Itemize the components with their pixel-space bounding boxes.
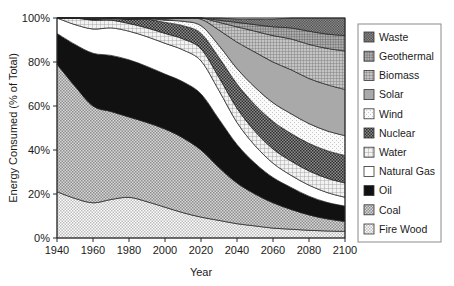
y-tick-label: 20% [28,188,50,200]
legend-label-waste: Waste [379,31,409,43]
legend-label-solar: Solar [379,88,404,100]
stacked-area-bands [57,18,345,238]
x-tick-label: 2040 [225,244,249,256]
solar-swatch [364,90,374,100]
biomass-swatch [364,70,374,80]
y-tick-label: 60% [28,100,50,112]
nuclear-swatch [364,128,374,138]
geothermal-swatch [364,51,374,61]
x-tick-label: 2060 [261,244,285,256]
x-axis-tick-labels: 194019601980200020202040206020802100 [45,244,357,256]
y-tick-label: 100% [22,12,50,24]
legend-label-nuclear: Nuclear [379,127,416,139]
legend-label-water: Water [379,146,407,158]
x-tick-label: 2080 [297,244,321,256]
x-tick-label: 1940 [45,244,69,256]
stacked-area-chart: 194019601980200020202040206020802100 0%2… [0,0,454,286]
y-axis-title: Energy Consumed (% of Total) [7,53,19,203]
fire-wood-swatch [364,224,374,234]
y-tick-label: 0% [34,232,50,244]
coal-swatch [364,205,374,215]
legend-label-oil: Oil [379,184,392,196]
chart-figure: 194019601980200020202040206020802100 0%2… [0,0,454,286]
x-tick-label: 1980 [117,244,141,256]
legend-label-geothermal: Geothermal [379,50,434,62]
legend-label-coal: Coal [379,204,401,216]
natural-gas-swatch [364,166,374,176]
x-tick-label: 1960 [81,244,105,256]
x-axis-ticks [57,238,345,242]
water-swatch [364,147,374,157]
x-axis-title: Year [190,266,213,278]
legend-label-fire-wood: Fire Wood [379,223,427,235]
y-axis-tick-labels: 0%20%40%60%80%100% [22,12,50,244]
waste-swatch [364,32,374,42]
wind-swatch [364,109,374,119]
x-tick-label: 2000 [153,244,177,256]
x-tick-label: 2020 [189,244,213,256]
y-axis-ticks [53,18,57,238]
legend-label-natural-gas: Natural Gas [379,165,435,177]
y-tick-label: 40% [28,144,50,156]
legend-label-wind: Wind [379,108,403,120]
legend: WasteGeothermalBiomassSolarWindNuclearWa… [358,24,441,242]
legend-label-biomass: Biomass [379,69,419,81]
x-tick-label: 2100 [333,244,357,256]
y-tick-label: 80% [28,56,50,68]
oil-swatch [364,186,374,196]
